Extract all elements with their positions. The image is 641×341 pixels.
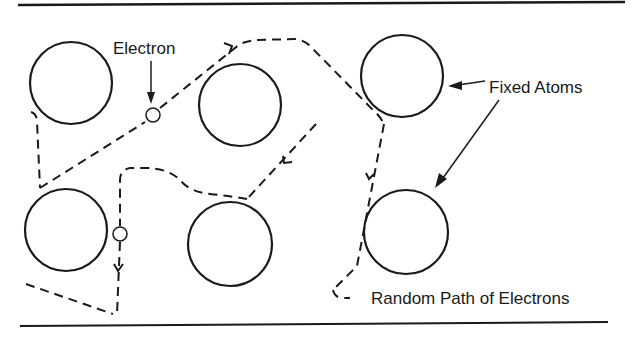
atom-circle: [199, 64, 281, 146]
path-arrowheads: [114, 43, 374, 271]
atom-circle: [30, 42, 112, 124]
top-boundary-line: [18, 2, 625, 5]
path-segment: [247, 124, 316, 199]
electron-label: Electron: [113, 39, 175, 58]
fixed-atoms-pointer-line: [443, 100, 499, 178]
arrowhead-icon: [448, 81, 462, 90]
atom-circle: [364, 190, 448, 274]
atom-circle: [188, 202, 272, 286]
path-segment: [31, 112, 40, 188]
arrowhead-icon: [147, 92, 155, 104]
bottom-boundary-line: [20, 322, 608, 326]
random-path: [26, 39, 384, 314]
atom-circle: [25, 189, 107, 271]
fixed-atoms: [25, 35, 448, 286]
path-segment: [333, 290, 350, 298]
random-path-label: Random Path of Electrons: [371, 289, 569, 308]
path-segment: [117, 242, 120, 314]
path-segment: [26, 284, 113, 314]
atom-circle: [361, 35, 443, 117]
arrowhead-icon: [366, 173, 374, 179]
fixed-atoms-label: Fixed Atoms: [489, 78, 583, 97]
path-segment: [120, 168, 247, 226]
diagram-canvas: Electron Fixed Atoms Random Path of Elec…: [0, 0, 641, 341]
electron-circle: [146, 108, 160, 122]
fixed-atoms-pointer-line: [458, 81, 485, 85]
path-segment: [40, 39, 384, 188]
path-segment: [333, 124, 384, 290]
electron-circle: [113, 227, 127, 241]
